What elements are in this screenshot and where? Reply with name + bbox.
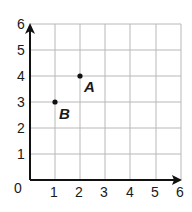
svg-text:3: 3 bbox=[17, 94, 25, 110]
coordinate-grid: 0 1 2 3 4 5 6 1 2 3 4 5 6 A B bbox=[0, 0, 192, 212]
axes bbox=[30, 30, 176, 180]
point-b-dot bbox=[52, 99, 57, 104]
svg-text:2: 2 bbox=[75, 184, 83, 200]
x-tick-labels: 1 2 3 4 5 6 bbox=[50, 184, 184, 200]
point-a-label: A bbox=[83, 78, 95, 95]
svg-text:1: 1 bbox=[50, 184, 58, 200]
point-a-dot bbox=[77, 73, 82, 78]
svg-text:1: 1 bbox=[17, 146, 25, 162]
svg-text:2: 2 bbox=[17, 120, 25, 136]
y-tick-labels: 1 2 3 4 5 6 bbox=[17, 16, 25, 162]
svg-text:4: 4 bbox=[126, 184, 134, 200]
svg-text:5: 5 bbox=[17, 42, 25, 58]
svg-text:6: 6 bbox=[17, 16, 25, 32]
origin-label: 0 bbox=[14, 180, 22, 196]
svg-text:3: 3 bbox=[100, 184, 108, 200]
svg-text:5: 5 bbox=[151, 184, 159, 200]
svg-text:6: 6 bbox=[176, 184, 184, 200]
svg-text:4: 4 bbox=[17, 68, 25, 84]
point-b-label: B bbox=[59, 105, 70, 122]
